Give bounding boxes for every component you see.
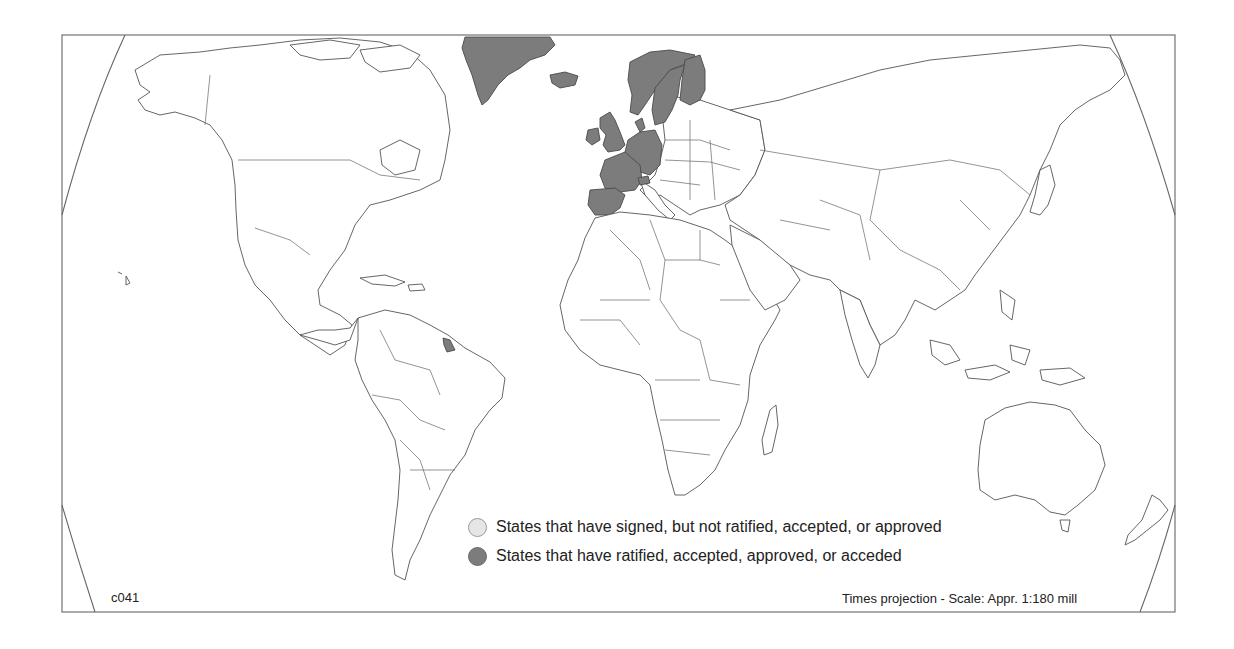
tasmania bbox=[1060, 520, 1070, 532]
map-code: c041 bbox=[111, 590, 139, 605]
iceland bbox=[550, 72, 578, 88]
cuba bbox=[360, 275, 405, 286]
united-kingdom bbox=[600, 112, 625, 152]
legend-item-ratified: States that have ratified, accepted, app… bbox=[468, 543, 942, 569]
australia bbox=[978, 402, 1105, 515]
legend: States that have signed, but not ratifie… bbox=[468, 514, 942, 572]
switzerland bbox=[638, 176, 650, 185]
projection-edge-left-top bbox=[62, 35, 125, 215]
hawaii bbox=[118, 272, 130, 285]
legend-item-signed: States that have signed, but not ratifie… bbox=[468, 514, 942, 540]
legend-label-signed: States that have signed, but not ratifie… bbox=[496, 518, 942, 536]
light-gray-circle-icon bbox=[468, 518, 487, 537]
dark-gray-circle-icon bbox=[468, 547, 487, 566]
new-zealand bbox=[1125, 495, 1168, 545]
greenland bbox=[462, 37, 555, 105]
southeast-asia-islands bbox=[930, 290, 1085, 385]
projection-edge-left-bottom bbox=[62, 505, 95, 612]
iberia bbox=[588, 188, 625, 215]
denmark bbox=[635, 118, 645, 132]
legend-label-ratified: States that have ratified, accepted, app… bbox=[496, 547, 902, 565]
hispaniola bbox=[408, 284, 425, 291]
madagascar bbox=[762, 405, 778, 455]
projection-note: Times projection - Scale: Appr. 1:180 mi… bbox=[842, 591, 1077, 606]
ireland bbox=[586, 128, 600, 145]
north-america bbox=[135, 38, 450, 355]
